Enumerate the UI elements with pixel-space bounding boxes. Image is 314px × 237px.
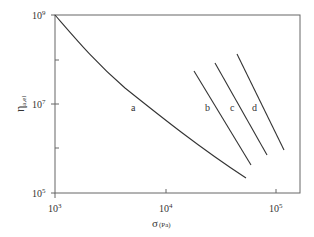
x-tick-label-1e3: 103 [48, 202, 62, 214]
curve-label-a: a [131, 102, 136, 113]
y-tick-label-1e9: 109 [32, 9, 46, 21]
series-a-line [55, 15, 246, 178]
x-axis-label: σ(Pa) [152, 217, 171, 229]
curve-label-c: c [230, 102, 235, 113]
x-tick-label-1e4: 104 [159, 202, 173, 214]
chart-canvas: 109 107 105 103 104 105 ηa,el σ(Pa) a b … [0, 0, 314, 237]
x-tick-label-1e5: 105 [269, 202, 283, 214]
plot-frame [55, 15, 300, 193]
series-d-line [237, 54, 284, 150]
y-axis-label: ηa,el [13, 96, 28, 112]
curve-label-b: b [205, 102, 210, 113]
curve-label-d: d [252, 102, 257, 113]
y-tick-label-1e7: 107 [32, 98, 46, 110]
series-c-line [215, 63, 267, 155]
series-b-line [194, 71, 251, 165]
y-tick-label-1e5: 105 [32, 187, 46, 199]
